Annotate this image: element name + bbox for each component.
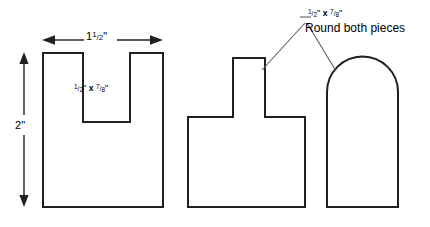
notch-second-fraction: 7/8	[96, 83, 105, 93]
round-second-fraction: 7/8	[330, 8, 339, 18]
dimension-unit: "	[103, 30, 107, 42]
u-shaped-piece	[43, 53, 163, 207]
round-first-unit: "	[317, 8, 320, 18]
fraction-denominator: 8	[335, 11, 339, 18]
fraction-denominator: 8	[101, 86, 105, 93]
round-first-fraction: 1/2	[308, 8, 317, 18]
notch-size-label: 1/2" x 7/8"	[74, 83, 108, 94]
dimension-fraction: 1/2	[92, 30, 103, 43]
height-unit: "	[21, 119, 25, 131]
t-shaped-piece	[188, 58, 305, 207]
technical-drawing-page: 11/2" 2" 1/2" x 7/8" 1/2" x 7/8" Round b…	[0, 0, 430, 227]
notch-second-unit: "	[105, 83, 108, 93]
arched-piece	[327, 56, 398, 207]
notch-first-fraction: 1/2	[74, 83, 83, 93]
arrowhead-down-icon	[19, 195, 28, 207]
vertical-dimension-label: 2"	[15, 119, 25, 132]
round-operator: x	[323, 8, 328, 18]
arrowhead-left-icon	[42, 35, 55, 45]
horizontal-dimension-label: 11/2"	[86, 30, 107, 43]
round-note-size-label: 1/2" x 7/8"	[308, 8, 342, 19]
fraction-denominator: 2	[313, 11, 317, 18]
arrowhead-up-icon	[19, 52, 28, 64]
notch-first-unit: "	[83, 83, 86, 93]
leader-line-to-tab	[262, 23, 305, 70]
notch-operator: x	[89, 83, 94, 93]
fraction-denominator: 2	[99, 34, 103, 43]
round-second-unit: "	[339, 8, 342, 18]
arrowhead-right-icon	[150, 35, 163, 45]
round-note-instruction: Round both pieces	[305, 22, 405, 36]
fraction-denominator: 2	[79, 86, 83, 93]
